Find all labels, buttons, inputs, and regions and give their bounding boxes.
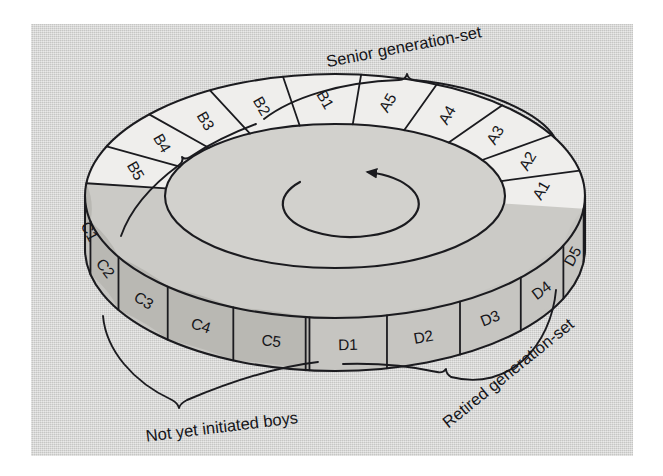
label-not-yet-initiated-boys: Not yet initiated boys — [145, 408, 299, 445]
generation-set-ring-diagram: A1A2A3A4A5B1B2B3B4B5C1C2C3C4C5D1D2D3D4D5 — [0, 0, 663, 476]
segment-label-d1: D1 — [338, 336, 358, 354]
figure-root: A1A2A3A4A5B1B2B3B4B5C1C2C3C4C5D1D2D3D4D5 — [0, 0, 663, 476]
segment-label-c5: C5 — [261, 331, 282, 350]
segment-label-d2: D2 — [412, 327, 434, 347]
label-senior-generation-set: Senior generation-set — [325, 22, 484, 70]
